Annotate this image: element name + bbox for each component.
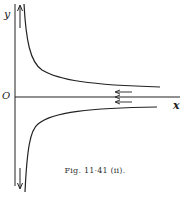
up-arrow-icon [18, 5, 23, 28]
lower-branch-curve [25, 107, 157, 192]
figure-caption: Fig. 11·41 (ii). [0, 166, 190, 175]
origin-label: O [2, 90, 10, 101]
left-arrow-upper-icon [115, 90, 132, 94]
y-axis-label: y [4, 8, 10, 21]
left-arrow-lower-icon [115, 100, 132, 104]
upper-branch-curve [24, 4, 160, 87]
x-axis-label: x [173, 99, 180, 112]
